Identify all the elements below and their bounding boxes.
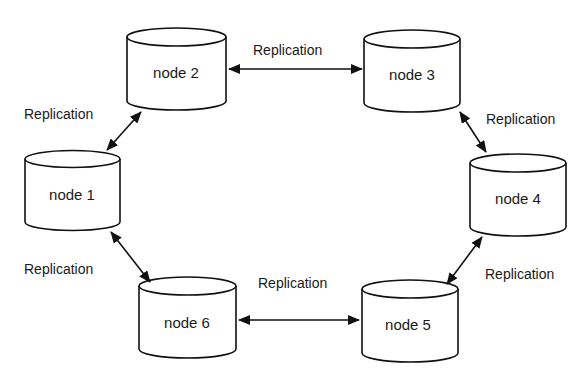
node-4-cylinder: node 4	[470, 154, 566, 236]
edge-node2-node3-label: Replication	[253, 42, 322, 58]
node-2-cylinder: node 2	[127, 28, 226, 110]
node-1-cylinder: node 1	[25, 151, 120, 231]
edge-node4-node5-arrow	[447, 237, 482, 284]
node-6-cylinder: node 6	[139, 277, 236, 358]
node-5-cylinder: node 5	[362, 280, 458, 362]
replication-ring-diagram: node 2 node 3 node 1 node 4 node 6 node …	[0, 0, 587, 385]
edge-node6-node1-label: Replication	[24, 261, 93, 277]
node-3-cylinder: node 3	[364, 30, 460, 112]
node-1-label: node 1	[49, 186, 95, 203]
edge-node3-node4-label: Replication	[486, 111, 555, 127]
edge-node4-node5-label: Replication	[485, 266, 554, 282]
node-2-label: node 2	[153, 64, 199, 81]
edge-node5-node6-label: Replication	[258, 275, 327, 291]
edge-node1-node2-label: Replication	[24, 106, 93, 122]
node-6-label: node 6	[164, 314, 210, 331]
edge-node3-node4-arrow	[460, 112, 486, 152]
edge-node1-node2-arrow	[107, 112, 141, 150]
node-4-label: node 4	[495, 190, 541, 207]
edge-node6-node1-arrow	[111, 232, 150, 282]
node-5-label: node 5	[385, 316, 431, 333]
node-3-label: node 3	[389, 66, 435, 83]
